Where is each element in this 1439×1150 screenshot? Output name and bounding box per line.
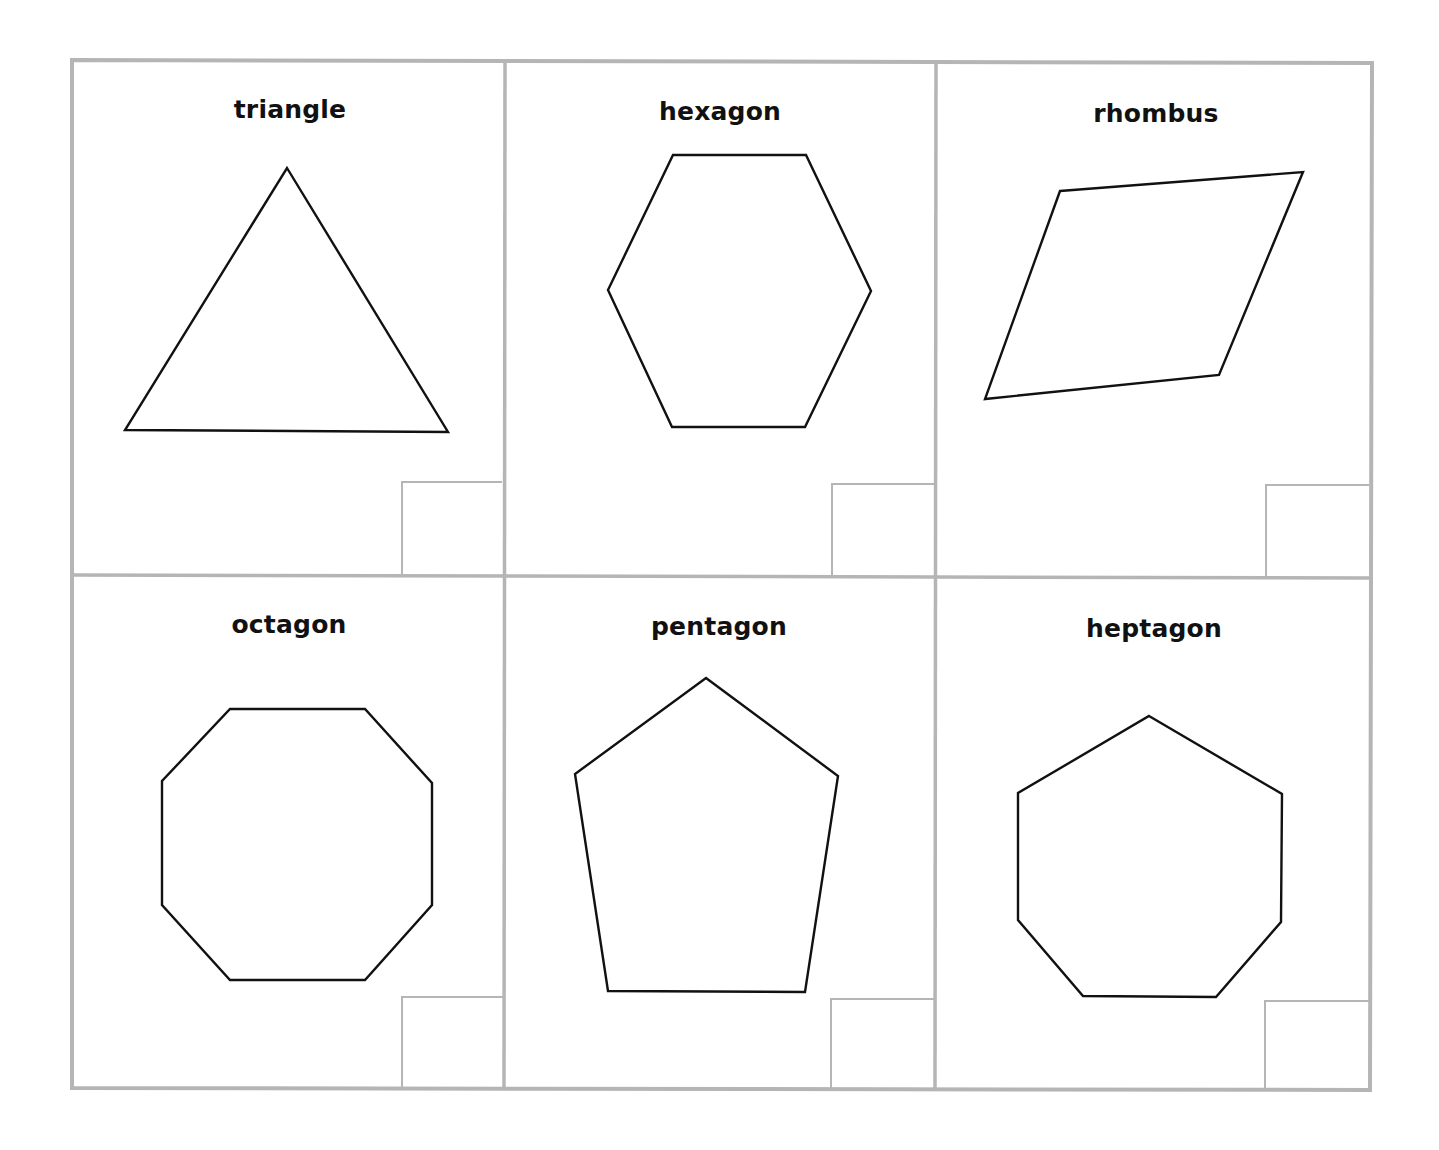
label-hexagon: hexagon xyxy=(570,97,870,127)
label-heptagon: heptagon xyxy=(1004,614,1304,644)
divider-horizontal xyxy=(72,575,1371,578)
rhombus-shape xyxy=(985,172,1303,399)
triangle-shape xyxy=(125,168,448,432)
worksheet-grid xyxy=(0,0,1439,1150)
label-pentagon: pentagon xyxy=(569,612,869,642)
hexagon-answer-box[interactable] xyxy=(832,484,935,577)
rhombus-answer-box[interactable] xyxy=(1266,485,1369,578)
pentagon-answer-box[interactable] xyxy=(831,999,935,1089)
answer-boxes xyxy=(402,482,1369,1090)
octagon-shape xyxy=(162,709,432,980)
label-octagon: octagon xyxy=(139,610,439,640)
hexagon-shape xyxy=(608,155,871,427)
label-triangle: triangle xyxy=(140,95,440,125)
octagon-answer-box[interactable] xyxy=(402,997,503,1088)
pentagon-shape xyxy=(575,678,838,992)
label-rhombus: rhombus xyxy=(1006,99,1306,129)
triangle-answer-box[interactable] xyxy=(402,482,502,575)
heptagon-shape xyxy=(1018,716,1282,997)
heptagon-answer-box[interactable] xyxy=(1265,1001,1369,1090)
